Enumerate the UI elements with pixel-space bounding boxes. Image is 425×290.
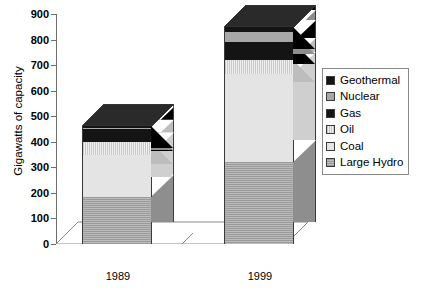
bar-segment-large-hydro[interactable] <box>82 197 152 244</box>
legend-swatch-icon <box>326 76 335 85</box>
y-tick <box>51 91 56 92</box>
bar-segment-nuclear[interactable] <box>82 128 152 129</box>
plot-area: 0100200300400500600700800900 19891999 <box>56 14 308 244</box>
bar-segment-geothermal[interactable] <box>224 27 294 32</box>
bar-top-face <box>224 5 316 27</box>
legend-label: Gas <box>340 108 361 120</box>
legend-swatch-icon <box>326 92 335 101</box>
y-tick-label: 300 <box>31 161 49 173</box>
segment-front-face <box>225 27 293 32</box>
bar-segment-large-hydro[interactable] <box>224 162 294 244</box>
segment-front-face <box>225 42 293 60</box>
y-tick-label: 0 <box>43 238 49 250</box>
segment-front-face <box>225 74 293 162</box>
y-tick <box>51 218 56 219</box>
segment-front-face <box>83 142 151 155</box>
y-tick-label: 500 <box>31 110 49 122</box>
legend-item-nuclear[interactable]: Nuclear <box>326 89 403 106</box>
y-tick <box>51 244 56 245</box>
legend-item-geothermal[interactable]: Geothermal <box>326 72 403 89</box>
x-axis-label-1999: 1999 <box>214 270 306 282</box>
legend-swatch-icon <box>326 142 335 151</box>
segment-front-face <box>83 197 151 244</box>
y-axis-line <box>56 14 57 244</box>
bar-segment-geothermal[interactable] <box>82 126 152 127</box>
y-tick-label: 100 <box>31 212 49 224</box>
bar-segment-gas[interactable] <box>224 42 294 60</box>
y-tick <box>51 167 56 168</box>
chart-figure: Gigawatts of capacity 010020030040050060… <box>0 0 425 290</box>
legend-label: Oil <box>340 124 354 136</box>
bar-segment-coal[interactable] <box>82 155 152 197</box>
legend-label: Nuclear <box>340 91 380 103</box>
y-tick-label: 400 <box>31 136 49 148</box>
bar-segment-oil[interactable] <box>82 142 152 155</box>
legend-label: Coal <box>340 141 364 153</box>
legend-swatch-icon <box>326 125 335 134</box>
segment-side-face <box>293 162 315 184</box>
bar-1999[interactable] <box>224 14 294 244</box>
bar-segment-coal[interactable] <box>224 74 294 162</box>
segment-front-face <box>83 129 151 142</box>
legend-label: Large Hydro <box>340 157 403 169</box>
segment-front-face <box>225 60 293 74</box>
y-tick-label: 200 <box>31 187 49 199</box>
segment-front-face <box>83 155 151 197</box>
segment-side-face <box>293 27 315 49</box>
y-tick <box>51 40 56 41</box>
bar-segment-oil[interactable] <box>224 60 294 74</box>
bar-top-face <box>82 104 174 126</box>
y-axis-title: Gigawatts of capacity <box>12 26 24 216</box>
legend-item-gas[interactable]: Gas <box>326 105 403 122</box>
legend-item-large-hydro[interactable]: Large Hydro <box>326 155 403 172</box>
legend-item-oil[interactable]: Oil <box>326 122 403 139</box>
legend-swatch-icon <box>326 158 335 167</box>
y-tick-label: 600 <box>31 85 49 97</box>
y-tick <box>51 65 56 66</box>
y-tick <box>51 142 56 143</box>
segment-side-face <box>151 126 173 148</box>
bar-segment-nuclear[interactable] <box>224 32 294 42</box>
y-tick-label: 800 <box>31 34 49 46</box>
segment-side-face <box>151 197 173 219</box>
y-tick <box>51 14 56 15</box>
legend-item-coal[interactable]: Coal <box>326 138 403 155</box>
bar-segment-gas[interactable] <box>82 129 152 142</box>
y-tick <box>51 193 56 194</box>
segment-front-face <box>83 126 151 127</box>
segment-front-face <box>83 128 151 129</box>
x-axis-label-1989: 1989 <box>72 270 164 282</box>
y-tick-label: 900 <box>31 8 49 20</box>
legend-label: Geothermal <box>340 75 400 87</box>
bar-1989[interactable] <box>82 14 152 244</box>
y-tick <box>51 116 56 117</box>
segment-front-face <box>225 32 293 42</box>
segment-front-face <box>225 162 293 244</box>
legend-swatch-icon <box>326 109 335 118</box>
legend: GeothermalNuclearGasOilCoalLarge Hydro <box>322 68 409 175</box>
y-tick-label: 700 <box>31 59 49 71</box>
